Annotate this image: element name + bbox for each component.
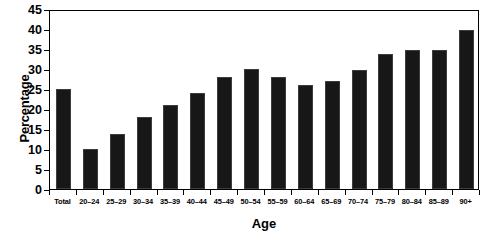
y-axis-tick-label: 0 [16,184,42,197]
x-axis-tick-label: 35–39 [160,197,180,206]
x-axis-tick-mark [398,190,399,195]
x-axis-tick-mark [157,190,158,195]
x-axis-tick-label: 75–79 [375,197,395,206]
y-axis-tick-label: 15 [16,124,42,137]
x-axis-tick-mark [264,190,265,195]
bar-chart: Percentage 051015202530354045 Age Total2… [0,0,491,247]
y-axis-tick-mark [44,50,49,51]
x-axis-tick-label: 45–49 [214,197,234,206]
bar [271,77,286,189]
x-axis-tick-label: 50–54 [241,197,261,206]
bar [137,117,152,189]
y-axis-tick-mark [44,110,49,111]
bars-group [50,11,478,189]
x-axis-tick-mark [210,190,211,195]
x-axis-tick-label: 40–44 [187,197,207,206]
bar [459,30,474,189]
x-axis-tick-label: 70–74 [348,197,368,206]
y-axis-tick-mark [44,30,49,31]
y-axis-tick-mark [44,70,49,71]
bar [163,105,178,189]
y-axis-tick-mark [44,90,49,91]
y-axis-tick-label: 45 [16,4,42,17]
x-axis-tick-label: 85–89 [429,197,449,206]
bar [56,89,71,189]
y-axis-tick-label: 35 [16,44,42,57]
y-axis-tick-label: 20 [16,104,42,117]
x-axis-tick-mark [130,190,131,195]
y-axis-tick-mark [44,150,49,151]
x-axis-tick-label: 55–59 [267,197,287,206]
x-axis-tick-mark [372,190,373,195]
y-axis-tick-label: 10 [16,144,42,157]
x-axis-tick-mark [318,190,319,195]
x-axis-tick-label: 80–84 [402,197,422,206]
x-axis-tick-mark [76,190,77,195]
x-axis-tick-label: 65–69 [321,197,341,206]
bar [325,81,340,189]
x-axis-tick-mark [291,190,292,195]
plot-area [49,10,479,190]
y-axis-tick-mark [44,10,49,11]
y-axis-tick-label: 30 [16,64,42,77]
bar [190,93,205,189]
x-axis-tick-label: 20–24 [79,197,99,206]
x-axis-tick-label: 25–29 [106,197,126,206]
x-axis-tick-mark [479,190,480,195]
bar [432,50,447,189]
bar [83,149,98,189]
x-axis-tick-label: 90+ [459,197,471,206]
y-axis-tick-label: 25 [16,84,42,97]
y-axis-tick-mark [44,130,49,131]
bar [110,134,125,189]
x-axis-tick-mark [183,190,184,195]
x-axis-tick-mark [425,190,426,195]
x-axis-tick-label: 30–34 [133,197,153,206]
x-axis-tick-mark [237,190,238,195]
bar [217,77,232,189]
bar [244,69,259,189]
x-axis-tick-label: 60–64 [294,197,314,206]
x-axis-tick-mark [452,190,453,195]
x-axis-tick-mark [49,190,50,195]
bar [405,50,420,189]
bar [352,70,367,189]
bar [298,85,313,189]
y-axis-tick-mark [44,170,49,171]
y-axis-tick-labels: 051015202530354045 [16,10,42,190]
x-axis-tick-label: Total [54,197,71,206]
y-axis-tick-label: 40 [16,24,42,37]
y-axis-tick-label: 5 [16,164,42,177]
x-axis-tick-mark [103,190,104,195]
x-axis-tick-mark [345,190,346,195]
x-axis-title: Age [49,216,479,231]
bar [378,54,393,189]
